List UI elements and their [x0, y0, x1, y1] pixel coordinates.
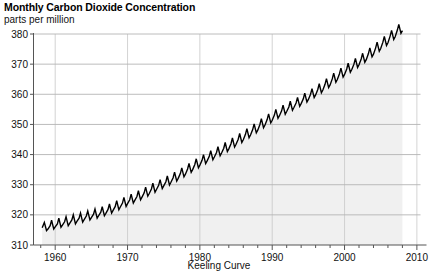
- ytick-label-340: 340: [11, 149, 28, 160]
- ytick-label-320: 320: [11, 209, 28, 220]
- chart-caption: Keeling Curve: [0, 260, 438, 271]
- x-axis-ticks: [41, 245, 417, 250]
- chart-plot-area: 310320330340350360370380 196019701980199…: [0, 0, 438, 278]
- chart-page: Monthly Carbon Dioxide Concentration par…: [0, 0, 438, 278]
- ytick-label-360: 360: [11, 89, 28, 100]
- ytick-label-350: 350: [11, 119, 28, 130]
- ytick-label-310: 310: [11, 240, 28, 251]
- y-axis-ticks: [30, 34, 34, 245]
- ytick-label-370: 370: [11, 59, 28, 70]
- ytick-label-330: 330: [11, 179, 28, 190]
- ytick-label-380: 380: [11, 29, 28, 40]
- y-axis-tick-labels: 310320330340350360370380: [11, 29, 28, 251]
